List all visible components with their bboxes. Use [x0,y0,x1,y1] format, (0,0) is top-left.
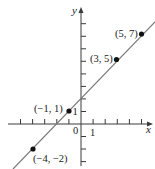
point-label-3-5: (3, 5) [90,53,113,65]
origin-label: 0 [73,125,78,136]
y-ticks [81,24,86,162]
y-axis-arrow-icon [79,7,84,13]
point-neg4-neg2 [30,146,35,151]
point-label-neg1-1: (−1, 1) [34,103,63,115]
point-label-neg4-neg2: (−4, −2) [33,153,68,165]
point-label-5-7: (5, 7) [115,28,138,40]
y-tick-label-1: 1 [73,106,78,117]
y-axis-label: y [71,4,77,16]
coordinate-plot: (−4, −2) (−1, 1) (3, 5) (5, 7) 1 0 1 x y [0,0,155,169]
point-5-7 [139,31,144,36]
point-3-5 [114,57,119,62]
point-neg1-1 [66,108,71,113]
x-tick-label-1: 1 [90,127,95,138]
x-axis-label: x [145,123,151,135]
